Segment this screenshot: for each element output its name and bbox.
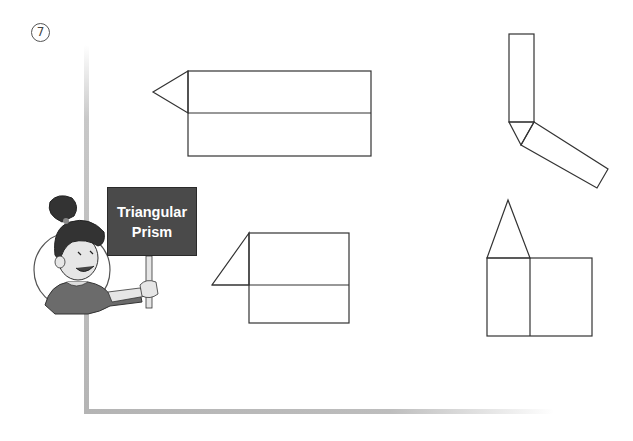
net-4 bbox=[487, 200, 592, 336]
net-3 bbox=[212, 233, 349, 323]
sign-text-line2: Prism bbox=[108, 222, 196, 242]
nets-canvas bbox=[0, 0, 633, 441]
sign-text-line1: Triangular bbox=[108, 202, 196, 222]
net-2 bbox=[509, 34, 608, 188]
net-1 bbox=[153, 71, 371, 156]
triangular-prism-sign: Triangular Prism bbox=[107, 187, 197, 256]
